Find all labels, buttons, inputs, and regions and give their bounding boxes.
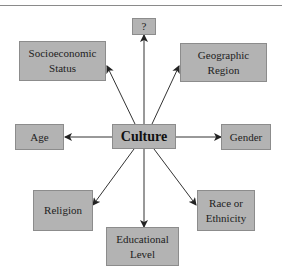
arrow-to-socioeconomic [107, 66, 135, 124]
node-label: Race or Ethnicity [198, 196, 254, 226]
node-geographic-region: Geographic Region [180, 43, 267, 82]
node-unknown: ? [132, 18, 156, 35]
node-label: Gender [230, 130, 262, 145]
center-label: Culture [121, 129, 167, 144]
node-label: Educational Level [107, 232, 178, 262]
node-label: Religion [44, 203, 82, 218]
node-label: Age [30, 130, 48, 145]
node-educational-level: Educational Level [106, 227, 179, 266]
node-religion: Religion [33, 190, 93, 231]
arrow-to-religion [93, 149, 134, 205]
node-race-or-ethnicity: Race or Ethnicity [197, 190, 255, 231]
arrow-to-geographic [152, 66, 179, 124]
node-gender: Gender [221, 124, 271, 150]
node-age: Age [15, 124, 64, 150]
node-label: Geographic Region [181, 48, 266, 78]
node-socioeconomic-status: Socioeconomic Status [19, 41, 106, 81]
node-culture: Culture [112, 124, 176, 149]
node-label: ? [142, 19, 147, 34]
node-label: Socioeconomic Status [20, 46, 105, 76]
arrow-to-race [154, 149, 196, 205]
